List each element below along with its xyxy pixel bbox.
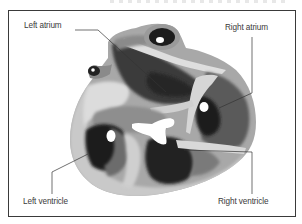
label-right-ventricle: Right ventricle	[218, 197, 268, 206]
left-ventricle-opening	[107, 130, 116, 142]
right-atrium-opening	[200, 102, 209, 112]
label-left-atrium: Left atrium	[24, 21, 62, 30]
heart-cross-section-image	[0, 0, 302, 224]
label-left-ventricle: Left ventricle	[23, 197, 68, 206]
label-right-atrium: Right atrium	[225, 23, 268, 32]
